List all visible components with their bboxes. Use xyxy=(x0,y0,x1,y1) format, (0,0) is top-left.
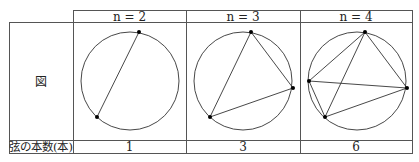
circle-point xyxy=(363,30,367,34)
circle-point xyxy=(137,30,141,34)
circle-point xyxy=(95,115,99,119)
chord-line xyxy=(325,32,365,117)
circle-n3 xyxy=(194,32,292,130)
circle-point xyxy=(323,115,327,119)
chord-line xyxy=(251,32,293,88)
circle-point xyxy=(307,79,311,83)
circle-n2 xyxy=(81,32,179,130)
header-n2: n = 2 xyxy=(73,11,186,23)
circle-point xyxy=(405,86,409,90)
header-n3: n = 3 xyxy=(186,11,300,23)
circle-point xyxy=(249,30,253,34)
circle-n4 xyxy=(308,32,406,130)
circle-point xyxy=(291,86,295,90)
chord-line xyxy=(365,32,407,88)
chord-count-n3: 3 xyxy=(186,141,300,153)
chord-count-n2: 1 xyxy=(73,141,186,153)
chord-line xyxy=(210,32,251,117)
chord-line xyxy=(97,32,139,117)
row-label-figure: 図 xyxy=(9,76,73,88)
chord-line xyxy=(309,32,365,81)
header-n4: n = 4 xyxy=(300,11,412,23)
chord-count-n4: 6 xyxy=(300,141,412,153)
circle-point xyxy=(208,115,212,119)
row-label-chord-count: 弦の本数(本) xyxy=(9,141,73,153)
chord-line xyxy=(309,81,407,88)
